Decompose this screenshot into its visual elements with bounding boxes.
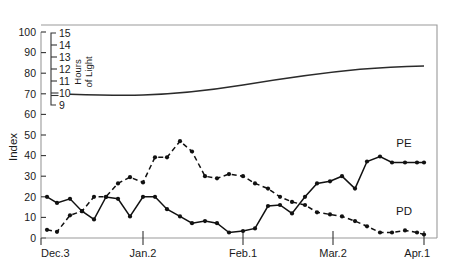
ytick-label-70: 70	[24, 88, 36, 100]
ytick-label-80: 80	[24, 67, 36, 79]
pd-markers	[45, 139, 426, 237]
y2tick-label-9: 9	[59, 99, 65, 111]
ytick-label-50: 50	[24, 129, 36, 141]
y2-axis-title-line1: Hours	[72, 59, 83, 85]
ytick-label-20: 20	[24, 191, 36, 203]
figure-chart: 0 10 20 30 40 50 60 70 80 90 100 Index 1…	[0, 0, 454, 269]
series-pe: PE	[45, 137, 426, 235]
ytick-label-100: 100	[18, 26, 36, 38]
y2tick-label-15: 15	[59, 27, 71, 39]
ytick-label-90: 90	[24, 46, 36, 58]
chart-canvas: 0 10 20 30 40 50 60 70 80 90 100 Index 1…	[0, 0, 454, 269]
y2tick-label-13: 13	[59, 51, 71, 63]
series-label-pe: PE	[396, 137, 412, 149]
daylight-panel-frame	[41, 25, 437, 121]
y2tick-label-11: 11	[59, 75, 70, 87]
xtick-label-feb1: Feb.1	[229, 247, 257, 259]
ytick-label-60: 60	[24, 108, 36, 120]
ytick-label-30: 30	[24, 170, 36, 182]
series-pd: PD	[45, 139, 426, 237]
hours-of-light-axis: 15 14 13 12 11 10 9 Hours of Light	[51, 27, 94, 111]
ytick-label-0: 0	[30, 232, 36, 244]
xtick-label-dec3: Dec.3	[41, 247, 70, 259]
ytick-label-40: 40	[24, 149, 36, 161]
x-axis: Dec.3 Jan.2 Feb.1 Mar.2 Apr.1	[41, 231, 437, 259]
index-axis: 0 10 20 30 40 50 60 70 80 90 100 Index	[7, 26, 46, 244]
y-axis-title: Index	[7, 133, 19, 161]
y2tick-label-12: 12	[59, 63, 71, 75]
xtick-label-mar2: Mar.2	[319, 247, 347, 259]
y2tick-label-10: 10	[59, 87, 71, 99]
y2-axis-title-line2: of Light	[83, 56, 94, 88]
series-label-pd: PD	[396, 205, 412, 217]
series-hours-of-light	[70, 66, 424, 95]
pe-markers	[45, 154, 426, 234]
y2tick-label-14: 14	[59, 39, 71, 51]
ytick-label-10: 10	[24, 211, 36, 223]
xtick-label-apr1: Apr.1	[404, 247, 430, 259]
xtick-label-jan2: Jan.2	[130, 247, 157, 259]
